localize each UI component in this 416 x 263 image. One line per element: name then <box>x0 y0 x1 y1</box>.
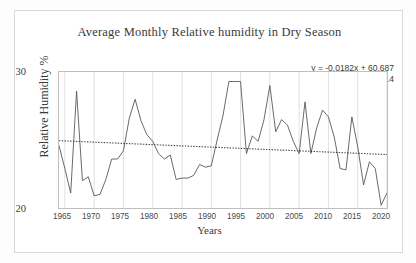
data-series-line <box>59 82 387 206</box>
x-tick-1980: 1980 <box>134 212 164 221</box>
plot-svg <box>59 72 387 208</box>
chart-title: Average Monthly Relative humidity in Dry… <box>15 25 404 40</box>
x-tick-2000: 2000 <box>250 212 280 221</box>
gridlines <box>65 72 387 208</box>
x-tick-1990: 1990 <box>192 212 222 221</box>
plot-area <box>58 71 388 209</box>
x-tick-1965: 1965 <box>47 212 77 221</box>
y-axis-title: Relative Humidity % <box>37 32 52 182</box>
trendline <box>59 141 387 155</box>
y-tick-30: 30 <box>2 66 26 77</box>
x-tick-1995: 1995 <box>221 212 251 221</box>
x-tick-2005: 2005 <box>279 212 309 221</box>
x-tick-1985: 1985 <box>163 212 193 221</box>
x-tick-1970: 1970 <box>76 212 106 221</box>
x-tick-2010: 2010 <box>308 212 338 221</box>
y-tick-20: 20 <box>2 203 26 214</box>
chart-page: Average Monthly Relative humidity in Dry… <box>0 0 416 263</box>
x-tick-1975: 1975 <box>105 212 135 221</box>
x-tick-2015: 2015 <box>337 212 367 221</box>
x-axis-title: Years <box>15 224 404 236</box>
chart-frame: Average Monthly Relative humidity in Dry… <box>14 10 403 253</box>
x-tick-2020: 2020 <box>366 212 396 221</box>
